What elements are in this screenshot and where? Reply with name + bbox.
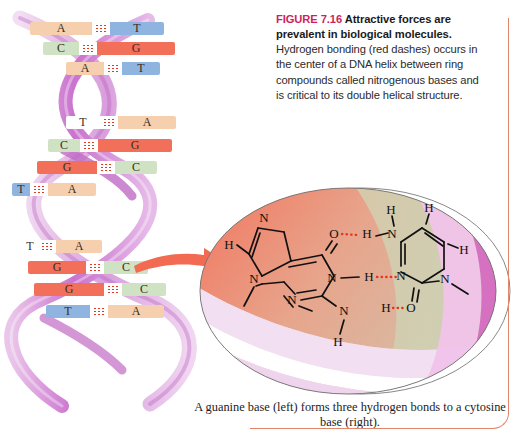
base-left: T: [12, 183, 30, 196]
atom-label: H: [381, 300, 390, 316]
atom-label: N: [327, 270, 336, 286]
atom-label: N: [287, 292, 296, 308]
base-pair-row: C G: [48, 139, 172, 152]
atom-label: N: [387, 226, 396, 242]
base-pair-row: T A: [12, 183, 96, 196]
base-pair-row: G C: [28, 261, 148, 274]
atom-label: H: [362, 226, 371, 242]
base-right: T: [122, 62, 160, 75]
atom-label: N: [259, 210, 268, 226]
hydrogen-bond-dashes: [86, 261, 104, 274]
atom-label: N: [440, 271, 449, 287]
base-pair-row: C G: [43, 42, 175, 55]
figure-number: FIGURE 7.16: [276, 13, 342, 25]
base-left: G: [34, 283, 104, 296]
atom-label: H: [364, 269, 373, 285]
hydrogen-bond-dashes: [104, 283, 122, 296]
base-pair-row: A T: [66, 62, 160, 75]
hydrogen-bond-dashes: [30, 183, 48, 196]
figure-body-text: Hydrogen bonding (red dashes) occurs in …: [276, 42, 484, 103]
atom-label: O: [406, 300, 415, 316]
hydrogen-bond-dashes: [100, 116, 118, 129]
atom-label: N: [339, 303, 348, 319]
figure-caption-block: FIGURE 7.16 Attractive forces are preval…: [276, 12, 484, 103]
hydrogen-bond-dashes: [79, 42, 97, 55]
hydrogen-bond-dashes: [104, 62, 122, 75]
hydrogen-bond-dashes: [90, 305, 108, 318]
atom-label: H: [459, 242, 468, 258]
base-left: G: [28, 261, 86, 274]
base-left: C: [43, 42, 79, 55]
base-right: A: [56, 240, 102, 253]
base-left: G: [37, 161, 97, 174]
base-right: G: [97, 42, 175, 55]
hydrogen-bond-dashes: [92, 22, 110, 35]
base-left: C: [48, 139, 80, 152]
base-right: T: [110, 22, 164, 35]
hydrogen-bond-dashes: [80, 139, 98, 152]
atom-label: H: [224, 237, 233, 253]
base-left: T: [22, 240, 38, 253]
molecule-atom-labels: H N N N N O N H H H H N H N O H H N: [196, 184, 516, 398]
atom-label: H: [386, 202, 395, 218]
atom-label: H: [424, 200, 433, 216]
base-left: T: [46, 305, 90, 318]
base-pair-row: A T: [30, 22, 164, 35]
atom-label: H: [333, 334, 342, 350]
base-right: C: [115, 161, 157, 174]
base-right: A: [48, 183, 96, 196]
figure-page: A T C G A T T A C G G: [0, 0, 526, 448]
atom-label: N: [249, 271, 258, 287]
hydrogen-bond-dashes: [97, 161, 115, 174]
detail-circle-caption: A guanine base (left) forms three hydrog…: [190, 400, 510, 431]
base-pair-row: T A: [22, 240, 102, 253]
base-right: G: [98, 139, 172, 152]
base-pair-row: G C: [37, 161, 157, 174]
base-right: A: [118, 116, 176, 129]
base-right: C: [122, 283, 166, 296]
base-left: T: [66, 116, 100, 129]
base-pair-row: T A: [46, 305, 164, 318]
base-pair-row: G C: [34, 283, 166, 296]
atom-label: N: [396, 268, 405, 284]
hydrogen-bond-dashes: [38, 240, 56, 253]
atom-label: O: [329, 226, 338, 242]
base-pair-row: T A: [66, 116, 176, 129]
figure-title: FIGURE 7.16 Attractive forces are preval…: [276, 12, 484, 41]
base-right: A: [108, 305, 164, 318]
base-left: A: [30, 22, 92, 35]
base-left: A: [66, 62, 104, 75]
